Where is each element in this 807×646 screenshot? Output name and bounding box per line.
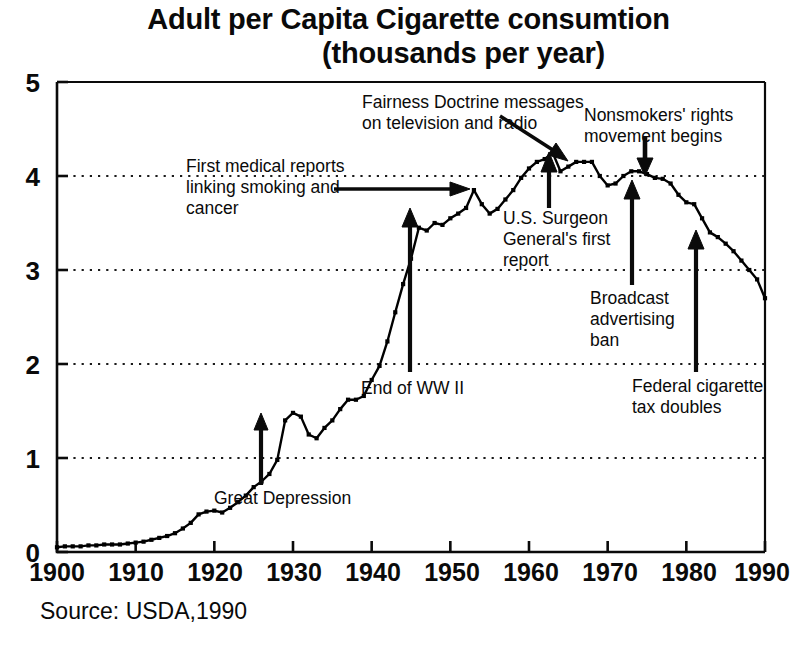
arrow-great-depression — [254, 413, 268, 485]
chart-figure: Adult per Capita Cigarette consumtion (t… — [0, 0, 807, 646]
x-tick-label-1940: 1940 — [333, 560, 413, 585]
annotation-first-medical-reports: First medical reports linking smoking an… — [186, 156, 345, 219]
x-tick-label-1920: 1920 — [175, 560, 255, 585]
x-tick-label-1910: 1910 — [96, 560, 176, 585]
annotation-fairness-doctrine: Fairness Doctrine messages on television… — [362, 92, 584, 134]
y-tick-label-4: 4 — [10, 164, 40, 190]
arrow-broadcast-ad-ban — [624, 180, 640, 285]
annotation-broadcast-ad-ban: Broadcast advertising ban — [590, 288, 675, 351]
x-tick-marks — [57, 541, 765, 552]
arrow-federal-tax-doubles — [688, 230, 704, 372]
arrow-first-medical-reports — [334, 182, 470, 196]
y-tick-label-2: 2 — [10, 352, 40, 378]
x-tick-label-1900: 1900 — [17, 560, 97, 585]
x-tick-label-1980: 1980 — [649, 560, 729, 585]
y-tick-marks — [57, 82, 68, 552]
annotation-end-of-ww2: End of WW II — [361, 378, 464, 399]
y-tick-label-5: 5 — [10, 70, 40, 96]
y-tick-label-1: 1 — [10, 446, 40, 472]
x-tick-label-1950: 1950 — [412, 560, 492, 585]
x-tick-label-1930: 1930 — [254, 560, 334, 585]
x-tick-label-1990: 1990 — [722, 560, 802, 585]
arrow-end-of-ww2 — [402, 208, 418, 372]
annotation-federal-tax-doubles: Federal cigarette tax doubles — [632, 376, 763, 418]
y-tick-label-3: 3 — [10, 258, 40, 284]
annotation-great-depression: Great Depression — [214, 488, 351, 509]
source-note: Source: USDA,1990 — [40, 598, 247, 625]
x-tick-label-1970: 1970 — [570, 560, 650, 585]
annotation-nonsmokers-rights: Nonsmokers' rights movement begins — [584, 105, 733, 147]
x-tick-label-1960: 1960 — [491, 560, 571, 585]
annotation-surgeon-general: U.S. Surgeon General's first report — [503, 208, 610, 271]
